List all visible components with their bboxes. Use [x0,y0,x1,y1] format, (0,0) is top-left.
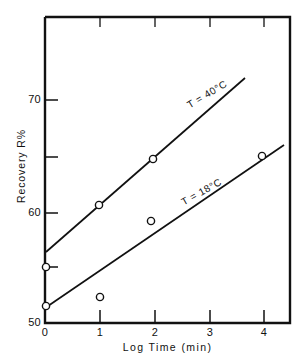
x-axis-ticks [100,310,264,323]
x-tick-label-4: 4 [254,326,274,338]
top-axis-ticks [100,17,264,27]
x-tick-label-1: 1 [90,326,110,338]
y-axis-ticks [45,100,58,267]
y-tick-label-70: 70 [6,93,41,105]
series-markers-hot [42,155,156,270]
y-axis-title: Recovery R% [15,116,27,216]
data-point [42,263,49,270]
x-tick-label-3: 3 [200,326,220,338]
data-point [96,293,103,300]
series-line-cold [48,145,284,306]
data-point [95,201,102,208]
recovery-vs-log-time-chart: 70 60 50 0 1 2 3 4 Recovery R% Log Time … [0,0,300,364]
data-point [42,302,49,309]
data-point [149,155,156,162]
data-point [147,217,154,224]
plot-area-svg [0,0,300,364]
x-tick-label-2: 2 [145,326,165,338]
data-point [258,152,265,159]
x-axis-title: Log Time (min) [45,341,290,353]
series-line-hot [46,78,245,252]
x-tick-label-0: 0 [35,326,55,338]
axis-frame [45,17,290,323]
